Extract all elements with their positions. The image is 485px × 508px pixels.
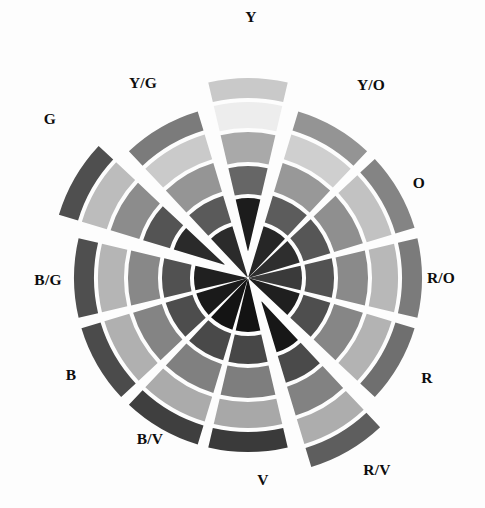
wheel-swatch-v-ring-3-middle [221,366,276,398]
wheel-swatch-r-o-ring-2 [304,258,334,297]
hue-label-b-v: B/V [137,431,163,447]
color-wheel-graphic [0,0,485,508]
wheel-swatch-y-ring-3-middle [221,132,276,164]
hue-label-b: B [66,367,77,383]
hue-label-r-o: R/O [427,270,455,286]
hue-label-y-g: Y/G [129,75,157,91]
wheel-swatch-b-g-ring-4 [98,244,127,313]
hue-label-o: O [413,175,425,191]
hue-label-b-g: B/G [34,272,61,288]
hue-label-g: G [44,111,56,127]
hue-label-r: R [421,370,432,386]
hue-label-y-o: Y/O [357,77,385,93]
hue-label-y: Y [245,9,256,25]
color-wheel-figure: YY/OOR/ORR/VVB/VBB/GGY/G [0,0,485,508]
hue-label-r-v: R/V [363,462,390,478]
wheel-swatch-b-g-ring-3-middle [128,251,160,306]
wheel-swatch-r-o-ring-3-middle [336,251,368,306]
hue-label-v: V [257,472,268,488]
wheel-swatch-r-o-ring-4 [369,244,398,313]
wheel-swatch-y-ring-4 [214,102,283,131]
wheel-swatch-y-ring-2 [228,166,267,196]
wheel-swatch-b-g-ring-2 [162,258,192,297]
wheel-swatch-v-ring-4 [214,399,283,428]
wheel-swatch-v-ring-2 [228,334,267,364]
